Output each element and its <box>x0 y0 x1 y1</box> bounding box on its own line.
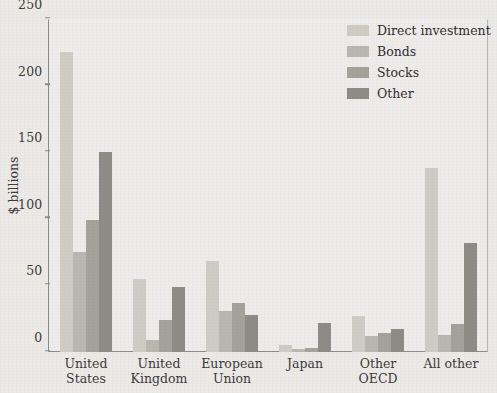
bar <box>425 168 438 352</box>
y-tick-label: 250 <box>18 0 49 12</box>
bar <box>99 152 112 352</box>
legend-swatch <box>347 88 369 99</box>
bar-group <box>123 19 196 352</box>
bar <box>172 287 185 352</box>
bar <box>365 336 378 352</box>
bar-fill <box>378 333 391 352</box>
x-axis-labels: UnitedStatesUnitedKingdomEuropeanUnionJa… <box>50 356 488 386</box>
legend-swatch <box>347 67 369 78</box>
x-axis-label: UnitedStates <box>50 356 123 386</box>
bar <box>73 252 86 352</box>
legend-label: Other <box>377 86 414 101</box>
bar-fill <box>245 315 258 352</box>
y-tick-label: 150 <box>18 130 49 145</box>
legend-label: Direct investment <box>377 23 491 38</box>
bar-fill <box>60 52 73 352</box>
bar-chart-figure: $ billions 050100150200250 UnitedStatesU… <box>0 0 497 393</box>
y-tick-label: 0 <box>34 330 49 345</box>
bar-fill <box>86 220 99 352</box>
bar-fill <box>133 279 146 352</box>
bar <box>378 333 391 352</box>
bar <box>232 303 245 352</box>
bar-fill <box>365 336 378 352</box>
legend-item: Stocks <box>347 65 491 80</box>
bar-fill <box>219 311 232 352</box>
bar-fill <box>451 324 464 352</box>
bar-fill <box>206 261 219 352</box>
legend-item: Direct investment <box>347 23 491 38</box>
x-axis-label: EuropeanUnion <box>196 356 269 386</box>
bar-fill <box>391 329 404 352</box>
legend-item: Other <box>347 86 491 101</box>
bar-group <box>50 19 123 352</box>
bar-fill <box>292 349 305 352</box>
bar <box>146 340 159 352</box>
bar <box>391 329 404 352</box>
bar-fill <box>232 303 245 352</box>
legend-swatch <box>347 46 369 57</box>
bar-fill <box>318 323 331 352</box>
bar-group <box>196 19 269 352</box>
bar <box>159 320 172 352</box>
bar-fill <box>99 152 112 352</box>
bar-fill <box>305 348 318 352</box>
bar-group <box>269 19 342 352</box>
bar <box>245 315 258 352</box>
bar-fill <box>172 287 185 352</box>
y-tick-label: 50 <box>26 263 49 278</box>
bar <box>318 323 331 352</box>
x-axis-label: Other OECD <box>342 356 415 386</box>
y-tick-label: 200 <box>18 63 49 78</box>
bar <box>206 261 219 352</box>
bar-fill <box>425 168 438 352</box>
bar <box>352 316 365 352</box>
bar <box>279 345 292 352</box>
bar <box>60 52 73 352</box>
legend-swatch <box>347 25 369 36</box>
bar <box>305 348 318 352</box>
bar-fill <box>159 320 172 352</box>
bar <box>464 243 477 352</box>
bar <box>292 349 305 352</box>
bar-fill <box>464 243 477 352</box>
bar-fill <box>438 335 451 352</box>
bar <box>133 279 146 352</box>
x-axis-label: UnitedKingdom <box>123 356 196 386</box>
legend: Direct investmentBondsStocksOther <box>347 23 491 101</box>
bar-fill <box>279 345 292 352</box>
bar-fill <box>146 340 159 352</box>
bar <box>219 311 232 352</box>
bar-fill <box>352 316 365 352</box>
legend-item: Bonds <box>347 44 491 59</box>
bar <box>438 335 451 352</box>
y-tick-label: 100 <box>18 196 49 211</box>
x-axis-label: Japan <box>269 356 342 386</box>
x-axis-label: All other <box>415 356 488 386</box>
legend-label: Bonds <box>377 44 416 59</box>
bar-fill <box>73 252 86 352</box>
bar <box>86 220 99 352</box>
bar <box>451 324 464 352</box>
legend-label: Stocks <box>377 65 419 80</box>
